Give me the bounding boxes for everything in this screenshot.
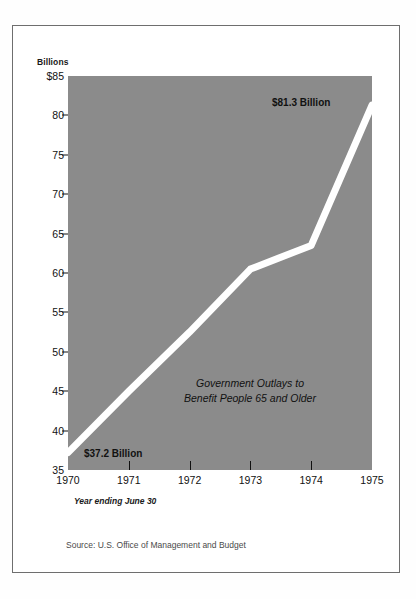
x-tick-mark-1973 [250, 461, 251, 470]
x-tick-label-1975: 1975 [360, 474, 383, 486]
y-tick-label-80: 80 [24, 109, 64, 121]
data-label-end: $81.3 Billion [272, 97, 330, 108]
line-series-svg [68, 76, 372, 470]
y-tick-label-65: 65 [24, 228, 64, 240]
x-axis-note: Year ending June 30 [74, 496, 156, 506]
x-tick-label-1972: 1972 [178, 474, 201, 486]
chart-annotation: Government Outlays to Benefit People 65 … [150, 376, 350, 406]
x-tick-mark-1972 [190, 461, 191, 470]
source-note: Source: U.S. Office of Management and Bu… [66, 540, 246, 550]
y-tick-label-85: $85 [24, 70, 64, 82]
x-tick-mark-1974 [311, 461, 312, 470]
plot-area [68, 76, 372, 470]
chart-figure: Billions 35404550556065707580$85 1970197… [0, 0, 416, 599]
y-tick-label-55: 55 [24, 306, 64, 318]
y-tick-label-70: 70 [24, 188, 64, 200]
chart-annotation-line-2: Benefit People 65 and Older [150, 391, 350, 406]
x-axis-tick-labels: 197019711972197319741975 [68, 474, 372, 490]
y-axis-tick-labels: 35404550556065707580$85 [18, 76, 64, 470]
x-tick-label-1974: 1974 [300, 474, 323, 486]
y-tick-label-40: 40 [24, 425, 64, 437]
y-tick-label-60: 60 [24, 267, 64, 279]
x-tick-label-1973: 1973 [239, 474, 262, 486]
y-tick-label-75: 75 [24, 149, 64, 161]
x-tick-label-1971: 1971 [117, 474, 140, 486]
x-tick-label-1970: 1970 [56, 474, 79, 486]
x-tick-mark-1971 [129, 461, 130, 470]
y-tick-label-45: 45 [24, 385, 64, 397]
y-axis-units-label: Billions [37, 57, 69, 67]
y-tick-label-50: 50 [24, 346, 64, 358]
data-label-start: $37.2 Billion [84, 448, 142, 459]
chart-annotation-line-1: Government Outlays to [150, 376, 350, 391]
